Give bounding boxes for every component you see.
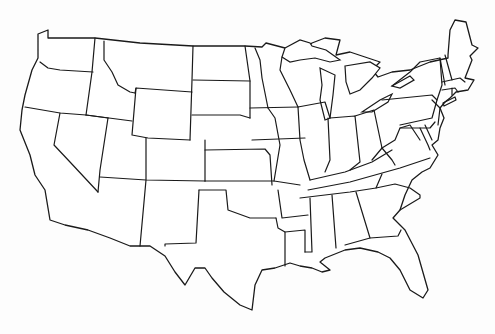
us-outline-map — [0, 0, 495, 334]
map-svg — [0, 0, 495, 334]
